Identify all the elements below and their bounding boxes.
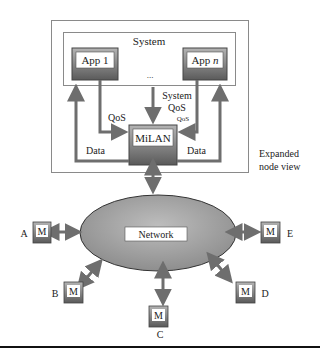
node-b-label: B bbox=[52, 288, 59, 299]
app-1-box: App 1 bbox=[72, 48, 118, 80]
node-d: M D bbox=[236, 282, 269, 303]
data-label-left: Data bbox=[86, 145, 105, 156]
node-a-glyph: M bbox=[38, 226, 47, 237]
link-b bbox=[85, 262, 100, 280]
svg-text:App n: App n bbox=[191, 54, 219, 66]
node-e-label: E bbox=[287, 228, 293, 239]
system-qos-label-line2: QoS bbox=[168, 102, 186, 113]
app-n-box: App n bbox=[183, 48, 227, 80]
bottom-rule bbox=[0, 346, 320, 348]
expanded-node-caption-line2: node view bbox=[259, 161, 301, 172]
node-c: M C bbox=[149, 306, 168, 340]
qos-arrow-left bbox=[100, 80, 124, 132]
app-n-label: App bbox=[191, 54, 213, 66]
link-d bbox=[215, 262, 230, 280]
node-e: M E bbox=[261, 222, 293, 243]
node-c-label: C bbox=[157, 329, 164, 340]
app-n-subscript: n bbox=[213, 54, 219, 66]
app-1-label: App 1 bbox=[81, 54, 108, 66]
node-c-glyph: M bbox=[154, 310, 163, 321]
system-qos-label-line1: System bbox=[162, 90, 192, 101]
node-d-label: D bbox=[261, 288, 268, 299]
node-e-glyph: M bbox=[266, 226, 275, 237]
milan-architecture-diagram: System App 1 App n ... MiLAN QoS System … bbox=[0, 0, 320, 352]
node-d-glyph: M bbox=[241, 286, 250, 297]
node-a: M A bbox=[20, 222, 51, 243]
data-label-right: Data bbox=[187, 145, 206, 156]
ellipsis: ... bbox=[147, 70, 154, 80]
node-a-label: A bbox=[20, 228, 28, 239]
network-label: Network bbox=[139, 229, 174, 240]
milan-box: MiLAN bbox=[129, 125, 177, 165]
node-b-glyph: M bbox=[69, 286, 78, 297]
qos-label-left: QoS bbox=[108, 112, 126, 123]
milan-label: MiLAN bbox=[135, 132, 171, 144]
node-b: M B bbox=[52, 282, 83, 303]
system-label: System bbox=[133, 35, 166, 47]
expanded-node-caption-line1: Expanded bbox=[259, 148, 299, 159]
qos-label-right: QoS bbox=[177, 115, 190, 123]
